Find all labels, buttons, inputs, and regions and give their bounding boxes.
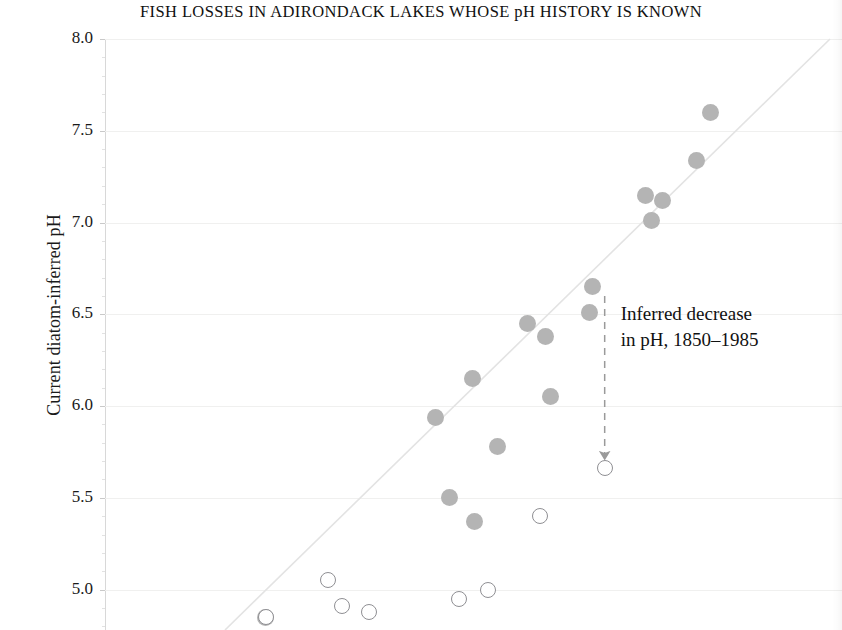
plot-area: Inferred decrease in pH, 1850–1985: [105, 39, 842, 630]
chart-root: FISH LOSSES IN ADIRONDACK LAKES WHOSE pH…: [0, 0, 842, 630]
page-edge-shading: [832, 0, 842, 630]
y-axis-title-text: Current diatom-inferred pH: [44, 214, 65, 416]
y-axis-title: Current diatom-inferred pH: [36, 0, 72, 630]
annotation-line-1: Inferred decrease: [621, 301, 759, 326]
annotation-line-2: in pH, 1850–1985: [621, 327, 759, 352]
annotation-label: Inferred decrease in pH, 1850–1985: [621, 301, 759, 351]
chart-title: FISH LOSSES IN ADIRONDACK LAKES WHOSE pH…: [0, 2, 842, 22]
